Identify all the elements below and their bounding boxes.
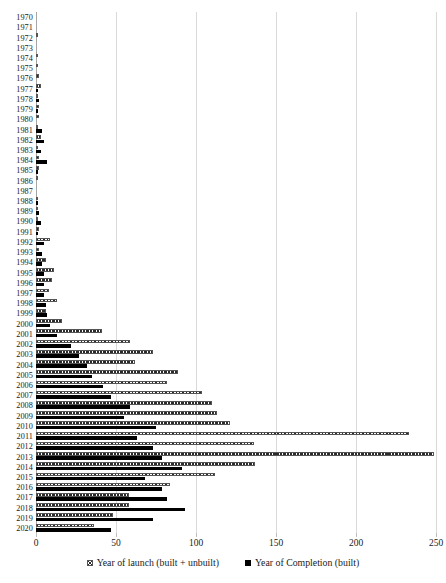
bar-group	[36, 43, 446, 53]
bar-row: 1991	[0, 227, 446, 237]
y-axis-label-1998: 1998	[0, 299, 33, 308]
bar-completion-1985	[36, 170, 38, 174]
bar-completion-2016	[36, 487, 162, 491]
bar-launch-2018	[36, 503, 129, 507]
bar-row: 2020	[0, 523, 446, 533]
bar-completion-1996	[36, 283, 44, 287]
bar-group	[36, 257, 446, 267]
bar-launch-1977	[36, 84, 41, 88]
bar-row: 2019	[0, 513, 446, 523]
bar-completion-2012	[36, 446, 153, 450]
y-axis-label-1999: 1999	[0, 309, 33, 318]
bar-row: 1970	[0, 12, 446, 22]
bar-group	[36, 165, 446, 175]
y-axis-label-2016: 2016	[0, 483, 33, 492]
bar-launch-1976	[36, 74, 39, 78]
y-axis-label-1985: 1985	[0, 166, 33, 175]
bar-group	[36, 421, 446, 431]
x-tick-label-250: 250	[429, 538, 443, 549]
bar-launch-2003	[36, 350, 153, 354]
bar-row: 1971	[0, 22, 446, 32]
bar-group	[36, 94, 446, 104]
bar-launch-1989	[36, 207, 38, 211]
bar-launch-1993	[36, 248, 39, 252]
bar-completion-2018	[36, 508, 185, 512]
bar-completion-1998	[36, 303, 46, 307]
y-axis-label-2014: 2014	[0, 462, 33, 471]
bar-row: 2000	[0, 319, 446, 329]
bar-row: 1997	[0, 288, 446, 298]
bar-row: 1977	[0, 84, 446, 94]
bar-launch-1988	[36, 197, 38, 201]
bar-group	[36, 12, 446, 22]
bar-launch-2017	[36, 493, 129, 497]
bar-group	[36, 227, 446, 237]
x-tick-label-150: 150	[269, 538, 283, 549]
bar-launch-2010	[36, 421, 230, 425]
bar-row: 1988	[0, 196, 446, 206]
bar-group	[36, 513, 446, 523]
bar-launch-1992	[36, 238, 50, 242]
bar-row: 1994	[0, 257, 446, 267]
bar-group	[36, 308, 446, 318]
bar-completion-1989	[36, 211, 39, 215]
y-axis-label-1970: 1970	[0, 13, 33, 22]
y-axis-label-2019: 2019	[0, 513, 33, 522]
bar-group	[36, 216, 446, 226]
bar-row: 1974	[0, 53, 446, 63]
bar-group	[36, 441, 446, 451]
bar-group	[36, 411, 446, 421]
bar-group	[36, 278, 446, 288]
y-axis-label-1980: 1980	[0, 115, 33, 124]
bar-row: 1992	[0, 237, 446, 247]
y-axis-label-1978: 1978	[0, 94, 33, 103]
y-axis-label-1994: 1994	[0, 258, 33, 267]
bar-completion-2019	[36, 518, 153, 522]
bar-launch-1998	[36, 299, 57, 303]
bar-row: 2004	[0, 359, 446, 369]
bar-completion-2007	[36, 395, 111, 399]
bar-row: 1995	[0, 267, 446, 277]
y-axis-label-2008: 2008	[0, 401, 33, 410]
bar-completion-2006	[36, 385, 103, 389]
chart-legend: Year of launch (built + unbuilt)Year of …	[0, 557, 446, 569]
y-axis-label-1989: 1989	[0, 207, 33, 216]
bar-launch-1986	[36, 176, 38, 180]
bar-row: 1998	[0, 298, 446, 308]
bar-launch-2008	[36, 401, 212, 405]
bar-completion-1977	[36, 89, 38, 93]
bar-group	[36, 32, 446, 42]
bar-launch-2015	[36, 473, 215, 477]
x-tick-250	[436, 533, 437, 537]
y-axis-label-1986: 1986	[0, 176, 33, 185]
bar-launch-2006	[36, 381, 167, 385]
x-tick-label-200: 200	[349, 538, 363, 549]
bar-completion-1988	[36, 201, 38, 205]
y-axis-label-2011: 2011	[0, 432, 33, 441]
bar-group	[36, 482, 446, 492]
bar-row: 1982	[0, 135, 446, 145]
bar-group	[36, 492, 446, 502]
bar-completion-1993	[36, 252, 42, 256]
bar-completion-1991	[36, 232, 38, 236]
x-tick-label-50: 50	[111, 538, 121, 549]
bar-row: 2016	[0, 482, 446, 492]
x-tick-50	[116, 533, 117, 537]
bar-launch-1983	[36, 146, 38, 150]
bar-row: 2011	[0, 431, 446, 441]
legend-item-launch: Year of launch (built + unbuilt)	[87, 557, 219, 569]
bar-completion-1997	[36, 293, 44, 297]
y-axis-label-2000: 2000	[0, 319, 33, 328]
bar-completion-1984	[36, 160, 47, 164]
bar-row: 2003	[0, 349, 446, 359]
bar-group	[36, 237, 446, 247]
bar-chart: 1970197119721973197419751976197719781979…	[0, 0, 446, 583]
bar-group	[36, 145, 446, 155]
bar-completion-2014	[36, 467, 182, 471]
bar-launch-2000	[36, 319, 62, 323]
bar-completion-1992	[36, 242, 44, 246]
bar-group	[36, 267, 446, 277]
bar-completion-2017	[36, 497, 167, 501]
y-axis-label-1974: 1974	[0, 53, 33, 62]
bar-launch-2013	[36, 452, 434, 456]
